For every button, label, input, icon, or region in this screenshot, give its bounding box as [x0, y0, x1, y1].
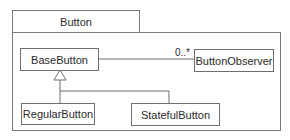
class-name: StatefulButton — [141, 109, 210, 121]
class-base-button: BaseButton — [20, 48, 99, 71]
generalization-branch — [60, 91, 169, 103]
class-name: RegularButton — [23, 108, 93, 120]
class-stateful-button: StatefulButton — [131, 103, 220, 126]
class-button-observer: ButtonObserver — [194, 49, 274, 72]
class-name: ButtonObserver — [195, 55, 272, 67]
class-name: BaseButton — [31, 54, 88, 66]
multiplicity-label: 0..* — [175, 47, 190, 58]
generalization-arrow-icon — [54, 70, 66, 80]
class-regular-button: RegularButton — [21, 103, 95, 125]
